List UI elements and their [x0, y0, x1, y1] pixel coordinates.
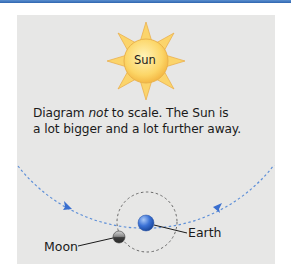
- moon-label: Moon: [44, 239, 78, 254]
- moon-leader-line: [78, 238, 113, 246]
- caption-line1-pre: Diagram: [33, 106, 88, 120]
- moon-icon: [113, 231, 125, 243]
- earth-label: Earth: [188, 225, 222, 240]
- sun-earth-moon-diagram: [0, 0, 291, 278]
- caption-line1-emphasis: not: [88, 106, 108, 120]
- sun-label: Sun: [134, 53, 156, 67]
- earth-icon: [138, 215, 154, 231]
- caption-line1-post: to scale. The Sun is: [108, 106, 228, 120]
- caption-line2: a lot bigger and a lot further away.: [33, 122, 241, 136]
- scale-caption: Diagram not to scale. The Sun is a lot b…: [33, 105, 273, 137]
- orbit-direction-arrow-left: [63, 201, 72, 210]
